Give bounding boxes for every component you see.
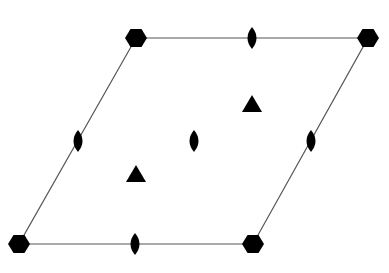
symmetry-diagram: [0, 0, 389, 273]
lens-icon: [131, 233, 140, 255]
lens-icon: [74, 130, 83, 152]
hexagon-icon: [357, 29, 379, 47]
triangle-icon: [126, 165, 146, 182]
triangle-icon: [242, 95, 262, 112]
hexagon-icon: [8, 235, 30, 253]
hexagon-icon: [242, 235, 264, 253]
lens-icon: [248, 27, 257, 49]
hexagon-icon: [125, 29, 147, 47]
twofold-rotation-centers: [74, 27, 316, 255]
lens-icon: [190, 130, 199, 152]
